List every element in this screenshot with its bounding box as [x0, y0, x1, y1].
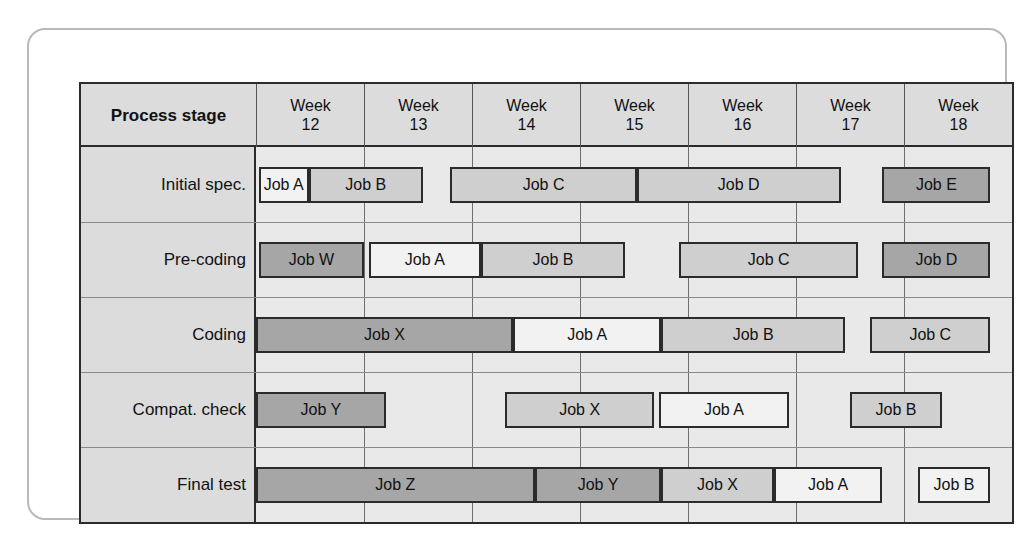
- week-word: Week: [398, 97, 439, 116]
- gantt-bar[interactable]: Job A: [369, 242, 481, 278]
- gantt-bar[interactable]: Job Z: [256, 467, 535, 503]
- gantt-bar[interactable]: Job Y: [256, 392, 386, 428]
- week-word: Week: [722, 97, 763, 116]
- week-word: Week: [506, 97, 547, 116]
- gantt-bar[interactable]: Job B: [661, 317, 845, 353]
- week-number: 17: [842, 116, 860, 135]
- week-word: Week: [290, 97, 331, 116]
- gantt-bar[interactable]: Job A: [259, 167, 309, 203]
- week-number: 13: [410, 116, 428, 135]
- week-word: Week: [614, 97, 655, 116]
- week-column-header-13: Week13: [364, 84, 472, 147]
- gantt-bar[interactable]: Job B: [481, 242, 626, 278]
- week-column-header-16: Week16: [688, 84, 796, 147]
- gantt-bar[interactable]: Job D: [882, 242, 990, 278]
- stage-label-compat-check: Compat. check: [81, 372, 246, 447]
- gantt-bar[interactable]: Job D: [637, 167, 841, 203]
- gantt-bar[interactable]: Job A: [774, 467, 883, 503]
- gantt-bar[interactable]: Job C: [870, 317, 990, 353]
- week-number: 15: [626, 116, 644, 135]
- stage-label-coding: Coding: [81, 297, 246, 372]
- week-column-header-14: Week14: [472, 84, 580, 147]
- week-word: Week: [830, 97, 871, 116]
- process-stage-header: Process stage: [81, 84, 256, 147]
- gantt-bar[interactable]: Job B: [918, 467, 991, 503]
- week-column-header-17: Week17: [796, 84, 904, 147]
- gantt-table: Process stage Week12Week13Week14Week15We…: [79, 82, 1014, 524]
- gantt-bar[interactable]: Job A: [659, 392, 789, 428]
- gantt-bar[interactable]: Job X: [661, 467, 773, 503]
- gantt-bar[interactable]: Job B: [309, 167, 423, 203]
- gantt-bar[interactable]: Job E: [882, 167, 990, 203]
- week-number: 16: [734, 116, 752, 135]
- gantt-bar[interactable]: Job X: [256, 317, 513, 353]
- week-word: Week: [938, 97, 979, 116]
- stage-label-final-test: Final test: [81, 447, 246, 522]
- gantt-bar[interactable]: Job B: [850, 392, 942, 428]
- gantt-bar[interactable]: Job Y: [535, 467, 662, 503]
- figure-frame: Process stage Week12Week13Week14Week15We…: [27, 28, 1007, 520]
- gantt-bar[interactable]: Job A: [513, 317, 661, 353]
- week-number: 14: [518, 116, 536, 135]
- gantt-bar[interactable]: Job X: [505, 392, 654, 428]
- gantt-bar[interactable]: Job C: [450, 167, 636, 203]
- gantt-bar[interactable]: Job W: [259, 242, 364, 278]
- week-column-header-18: Week18: [904, 84, 1012, 147]
- stage-label-initial-spec: Initial spec.: [81, 147, 246, 222]
- week-column-header-15: Week15: [580, 84, 688, 147]
- week-column-header-12: Week12: [256, 84, 364, 147]
- week-number: 12: [302, 116, 320, 135]
- gantt-chart-figure: Process stage Week12Week13Week14Week15We…: [0, 0, 1034, 545]
- stage-label-pre-coding: Pre-coding: [81, 222, 246, 297]
- table-header-row: Process stage Week12Week13Week14Week15We…: [81, 84, 1012, 147]
- gantt-bar[interactable]: Job C: [679, 242, 858, 278]
- week-number: 18: [950, 116, 968, 135]
